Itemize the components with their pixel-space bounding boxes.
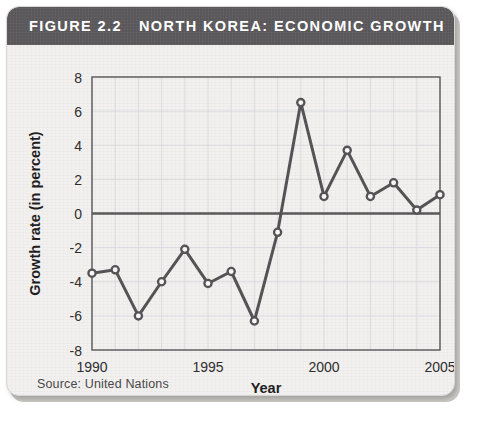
data-point: [251, 317, 258, 324]
data-point: [274, 229, 281, 236]
line-chart: -8-6-4-202468 1990199520002005 YearGrowt…: [7, 45, 454, 395]
y-axis-title: Growth rate (in percent): [27, 131, 43, 296]
y-axis-tick-labels: -8-6-4-202468: [70, 70, 83, 359]
data-point: [228, 268, 235, 275]
x-axis-title: Year: [251, 380, 282, 395]
y-tick-label: 0: [74, 206, 82, 222]
x-tick-label: 1990: [76, 359, 107, 375]
figure-title-bar: FIGURE 2.2 NORTH KOREA: ECONOMIC GROWTH: [7, 7, 454, 45]
y-tick-label: 2: [74, 172, 82, 188]
y-tick-label: 8: [74, 70, 82, 86]
data-point: [135, 312, 142, 319]
axis-titles: YearGrowth rate (in percent): [27, 131, 282, 395]
x-tick-label: 2005: [424, 359, 454, 375]
x-axis-tick-labels: 1990199520002005: [76, 359, 454, 375]
data-series-growth-rate: [88, 99, 443, 325]
data-point: [181, 246, 188, 253]
figure-screenshot: FIGURE 2.2 NORTH KOREA: ECONOMIC GROWTH …: [0, 0, 492, 421]
figure-number: FIGURE 2.2: [29, 18, 122, 34]
figure-card: FIGURE 2.2 NORTH KOREA: ECONOMIC GROWTH …: [6, 6, 455, 396]
chart-area: -8-6-4-202468 1990199520002005 YearGrowt…: [7, 45, 454, 395]
data-point: [390, 179, 397, 186]
data-point: [344, 147, 351, 154]
data-point: [204, 280, 211, 287]
source-note: Source: United Nations: [37, 377, 169, 391]
data-point: [320, 193, 327, 200]
y-tick-label: -8: [70, 343, 83, 359]
data-point: [88, 270, 95, 277]
data-point: [436, 191, 443, 198]
y-tick-label: -2: [70, 240, 83, 256]
y-tick-label: 6: [74, 104, 82, 120]
y-tick-label: 4: [74, 138, 82, 154]
data-point: [297, 99, 304, 106]
y-tick-label: -6: [70, 308, 83, 324]
x-tick-label: 1995: [192, 359, 223, 375]
y-tick-label: -4: [70, 274, 83, 290]
x-tick-label: 2000: [308, 359, 339, 375]
data-point: [112, 266, 119, 273]
data-point: [413, 206, 420, 213]
data-point: [367, 193, 374, 200]
figure-title: NORTH KOREA: ECONOMIC GROWTH: [139, 18, 445, 34]
data-point: [158, 278, 165, 285]
